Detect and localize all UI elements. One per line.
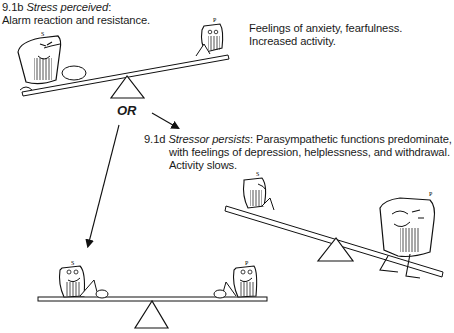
character-s-small: S xyxy=(244,171,275,210)
character-s-large: S xyxy=(18,31,86,90)
or-label: OR xyxy=(117,103,137,118)
figure-number: 9.1b xyxy=(2,1,23,13)
fulcrum-triangle xyxy=(318,238,353,261)
svg-text:S: S xyxy=(71,260,74,266)
character-s-balanced: S xyxy=(60,260,109,298)
svg-text:P: P xyxy=(429,191,433,197)
anxiety-description-line1: Feelings of anxiety, fearfulness. xyxy=(249,22,402,35)
seesaw-stress-perceived: S P xyxy=(18,17,229,98)
caption-title: Stressor persists xyxy=(168,133,250,145)
anxiety-description-line2: Increased activity. xyxy=(249,35,336,48)
caption-title: Stress perceived xyxy=(26,1,108,13)
seesaw-balanced: S P xyxy=(38,260,267,328)
character-p-small: P xyxy=(196,17,223,56)
svg-text:S: S xyxy=(256,171,259,177)
caption-stress-perceived-desc: Alarm reaction and resistance. xyxy=(2,14,150,27)
svg-text:P: P xyxy=(245,260,249,266)
caption-stress-perceived: 9.1b Stress perceived: xyxy=(2,1,111,14)
fulcrum-triangle xyxy=(135,301,168,328)
svg-text:S: S xyxy=(41,31,44,37)
arrow-to-balanced xyxy=(88,125,119,246)
caption-stressor-persists-line3: Activity slows. xyxy=(169,159,237,172)
arrow-to-stressor-persists xyxy=(152,113,178,128)
svg-text:P: P xyxy=(213,17,217,23)
seesaw-stressor-persists: S P xyxy=(225,171,443,278)
figure-number: 9.1d xyxy=(144,133,165,145)
caption-stressor-persists: 9.1d Stressor persists: Parasympathetic … xyxy=(144,133,452,146)
caption-stressor-persists-line2: with feelings of depression, helplessnes… xyxy=(169,146,450,159)
character-p-balanced: P xyxy=(214,260,257,298)
